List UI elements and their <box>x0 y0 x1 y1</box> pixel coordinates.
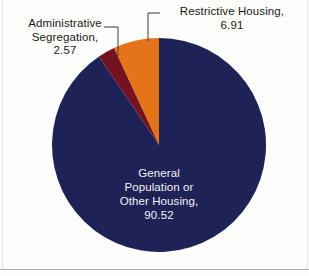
frame-divider-bottom <box>0 269 309 270</box>
frame-divider-right <box>307 0 308 270</box>
slice-label-general-population: General Population or Other Housing, 90.… <box>88 166 230 222</box>
frame-divider-left <box>2 0 3 270</box>
slice-label-restrictive-housing: Restrictive Housing, 6.91 <box>162 5 302 32</box>
slice-label-administrative-segregation: Administrative Segregation, 2.57 <box>6 17 124 58</box>
pie-chart-figure: Restrictive Housing, 6.91 Administrative… <box>0 0 309 276</box>
leader-line-restrictive-housing <box>148 13 160 41</box>
